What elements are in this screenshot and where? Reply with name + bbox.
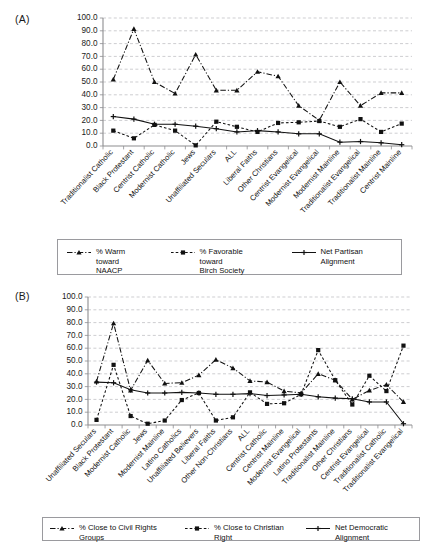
legend-marker-icon xyxy=(170,248,196,257)
data-point xyxy=(214,418,218,422)
y-tick-label: 100.0 xyxy=(77,13,98,22)
y-tick-label: 40.0 xyxy=(82,90,98,99)
data-point xyxy=(132,136,136,140)
data-point xyxy=(316,394,321,399)
x-category-labels: Traditionalist CatholicBlack ProtestantC… xyxy=(59,147,403,215)
data-point xyxy=(179,390,184,395)
data-point xyxy=(230,392,235,397)
y-tick-label: 90.0 xyxy=(67,305,83,314)
x-category-labels: Unaffiliated SecularsBlack ProtestantMod… xyxy=(44,426,405,494)
data-point xyxy=(193,52,198,57)
data-point xyxy=(111,363,115,367)
data-point xyxy=(94,418,98,422)
y-tick-label: 30.0 xyxy=(82,103,98,112)
data-point xyxy=(333,378,337,382)
data-point xyxy=(333,396,338,401)
y-tick-label: 60.0 xyxy=(82,64,98,73)
data-point xyxy=(358,117,362,121)
legend-item: Net Partisan Alignment xyxy=(291,247,396,266)
legend-glyph-triangle xyxy=(49,524,75,533)
data-point xyxy=(196,372,201,377)
data-point xyxy=(111,321,116,326)
data-point xyxy=(401,344,405,348)
series-1 xyxy=(111,26,405,122)
data-point xyxy=(145,358,150,363)
data-point xyxy=(111,77,116,82)
y-tick-label: 30.0 xyxy=(67,382,83,391)
y-tick-label: 70.0 xyxy=(67,331,83,340)
y-tick-label: 80.0 xyxy=(82,39,98,48)
data-point xyxy=(111,380,116,385)
legend-label: % Warm toward NAACP xyxy=(96,247,148,276)
data-point xyxy=(173,129,177,133)
y-tick-label: 10.0 xyxy=(82,128,98,137)
series-2 xyxy=(94,344,405,426)
data-point xyxy=(234,129,239,134)
legend-glyph-square xyxy=(184,524,210,533)
legend-glyph-plus xyxy=(291,248,317,257)
y-tick-label: 0.0 xyxy=(71,420,83,429)
legend-label: Net Partisan Alignment xyxy=(321,247,396,266)
data-point xyxy=(255,69,260,74)
panel-b-svg: 0.010.020.030.040.050.060.070.080.090.01… xyxy=(0,280,440,557)
legend-item: % Close to Civil Rights Groups xyxy=(49,523,174,542)
data-point xyxy=(337,140,342,145)
data-point xyxy=(276,74,281,79)
legend-label: % Close to Civil Rights Groups xyxy=(79,523,174,542)
data-point xyxy=(235,125,239,129)
legend-label: % Close to Christian Right xyxy=(214,523,295,542)
chart-b-legend: % Close to Civil Rights Groups% Close to… xyxy=(42,517,420,541)
legend-marker-icon xyxy=(291,248,317,257)
data-point xyxy=(301,250,306,255)
data-point xyxy=(367,374,371,378)
data-point xyxy=(317,119,321,123)
y-tick-label: 70.0 xyxy=(82,52,98,61)
legend-marker-icon xyxy=(66,248,92,257)
panel-a-svg: 0.010.020.030.040.050.060.070.080.090.01… xyxy=(0,0,440,280)
y-tick-label: 50.0 xyxy=(67,356,83,365)
legend-item: % Favorable toward Birch Society xyxy=(170,247,265,276)
data-point xyxy=(317,131,322,136)
chart-panel-b: (B) 0.010.020.030.040.050.060.070.080.09… xyxy=(0,280,440,557)
data-point xyxy=(358,139,363,144)
data-point xyxy=(264,393,269,398)
legend-label: % Favorable toward Birch Society xyxy=(200,247,265,276)
data-point xyxy=(94,380,99,385)
data-point xyxy=(358,103,363,108)
data-point xyxy=(131,26,136,31)
data-point xyxy=(180,250,184,254)
legend-glyph-plus xyxy=(305,524,331,533)
y-tick-label: 0.0 xyxy=(86,141,98,150)
legend-item: Net Democratic Alignment xyxy=(305,523,415,542)
data-point xyxy=(276,121,280,125)
data-point xyxy=(193,124,198,129)
y-tick-label: 60.0 xyxy=(67,343,83,352)
data-point xyxy=(231,415,235,419)
x-category-label: Jews xyxy=(179,148,198,167)
data-point xyxy=(282,401,286,405)
data-point xyxy=(214,120,218,124)
legend-marker-icon xyxy=(49,524,75,533)
data-point xyxy=(400,122,404,126)
data-point xyxy=(213,392,218,397)
data-point xyxy=(338,125,342,129)
data-point xyxy=(162,390,167,395)
data-point xyxy=(180,398,184,402)
y-tick-label: 40.0 xyxy=(67,369,83,378)
chart-a-legend: % Warm toward NAACP% Favorable toward Bi… xyxy=(57,239,402,275)
y-tick-label: 100.0 xyxy=(62,292,83,301)
legend-glyph-square xyxy=(170,248,196,257)
legend-marker-icon xyxy=(305,524,331,533)
data-point xyxy=(399,90,404,95)
legend-label: Net Democratic Alignment xyxy=(335,523,415,542)
data-point xyxy=(367,399,372,404)
data-point xyxy=(173,91,178,96)
y-tick-label: 20.0 xyxy=(82,116,98,125)
data-point xyxy=(316,348,320,352)
data-point xyxy=(230,365,235,370)
data-point xyxy=(315,526,320,531)
series-line xyxy=(97,382,404,424)
x-category-label: ALL xyxy=(223,148,239,164)
data-point xyxy=(173,122,178,127)
data-point xyxy=(265,402,269,406)
